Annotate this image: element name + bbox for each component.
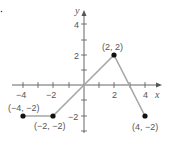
point-label: (2, 2) <box>102 42 123 52</box>
function-graph: −4 −2 2 4 x 4 2 −2 y (−4, −2) (−2, −2) (… <box>0 0 171 147</box>
axes <box>12 14 158 133</box>
data-point <box>50 113 55 118</box>
point-label: (4, −2) <box>132 122 158 132</box>
x-tick-label: 2 <box>112 90 117 100</box>
y-tick-label: −2 <box>68 112 78 122</box>
data-point <box>20 113 25 118</box>
x-tick-label: −4 <box>16 90 26 100</box>
y-axis-label: y <box>74 5 80 16</box>
data-point <box>111 52 116 57</box>
x-tick-label: −2 <box>46 90 56 100</box>
x-tick-label: 4 <box>143 90 148 100</box>
x-axis-label: x <box>154 89 160 100</box>
y-tick-label: 4 <box>74 20 79 30</box>
point-label: (−2, −2) <box>34 121 66 131</box>
stray-dot <box>1 11 3 13</box>
x-axis-arrow-icon <box>156 83 162 88</box>
data-point <box>142 113 147 118</box>
y-axis-arrow-icon <box>82 10 87 16</box>
point-label: (−4, −2) <box>8 103 40 113</box>
y-tick-label: 2 <box>74 51 79 61</box>
